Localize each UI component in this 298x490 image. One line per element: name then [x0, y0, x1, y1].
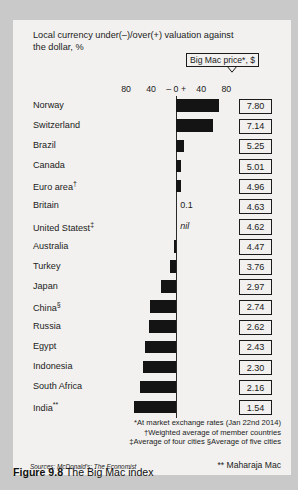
big-mac-price-box: 4.47 [239, 239, 272, 254]
country-label: Britain [33, 200, 59, 210]
figure-caption: Figure 9.8 The Big Mac index [13, 466, 291, 478]
chart-row: Canada5.01 [13, 156, 291, 176]
chart-panel: Local currency under(–)/over(+) valuatio… [13, 20, 291, 423]
chart-row: Indonesia2.30 [13, 357, 291, 377]
chart-row: India**1.54 [13, 397, 291, 417]
value-bar [174, 240, 176, 253]
big-mac-price-box: 2.16 [239, 380, 272, 395]
big-mac-price-box: 2.74 [239, 300, 272, 315]
bar-value-annotation: nil [180, 221, 189, 231]
chart-row: Japan2.97 [13, 277, 291, 297]
value-bar [176, 160, 180, 173]
big-mac-price-box: 1.54 [239, 400, 272, 415]
big-mac-price-box: 7.80 [239, 99, 272, 114]
chart-row: Egypt2.43 [13, 337, 291, 357]
big-mac-price-box: 2.43 [239, 340, 272, 355]
footnote-line: *At market exchange rates (Jan 22nd 2014… [33, 418, 281, 428]
x-tick-neg40: 40 [146, 84, 156, 94]
country-footnote-marker: ** [53, 401, 58, 408]
footnote-line: †Weighted average of member countries [33, 428, 281, 438]
big-mac-price-box: 7.14 [239, 119, 272, 134]
value-bar [176, 180, 181, 193]
chart-row: China§2.74 [13, 297, 291, 317]
footnotes: *At market exchange rates (Jan 22nd 2014… [33, 418, 281, 447]
value-bar [134, 401, 176, 414]
value-bar [176, 119, 212, 132]
chart-row: Russia2.62 [13, 317, 291, 337]
legend-pointer-icon [227, 66, 237, 73]
chart-row: Turkey3.76 [13, 257, 291, 277]
country-label: Australia [33, 241, 68, 251]
value-bar [176, 99, 219, 112]
country-label: Japan [33, 281, 58, 291]
x-tick-neg80: 80 [121, 84, 131, 94]
big-mac-price-box: 2.30 [239, 360, 272, 375]
country-label: Brazil [33, 140, 56, 150]
chart-row: Euro area†4.96 [13, 176, 291, 196]
value-bar [176, 140, 184, 153]
big-mac-price-box: 5.25 [239, 139, 272, 154]
value-bar [143, 361, 176, 374]
figure-card: Local currency under(–)/over(+) valuatio… [13, 20, 291, 475]
big-mac-price-box: 2.97 [239, 279, 272, 294]
country-label: Canada [33, 160, 65, 170]
big-mac-price-box: 4.96 [239, 179, 272, 194]
country-footnote-marker: § [57, 301, 61, 308]
footnote-line: ‡Average of four cities §Average of five… [33, 437, 281, 447]
country-label: United Statest‡ [33, 221, 94, 233]
big-mac-price-box: 3.76 [239, 259, 272, 274]
x-tick-pos40: 40 [196, 84, 206, 94]
big-mac-price-box: 4.62 [239, 219, 272, 234]
value-bar [149, 320, 177, 333]
country-label: Egypt [33, 341, 56, 351]
figure-caption-text: The Big Mac index [66, 466, 154, 478]
value-bar [170, 260, 176, 273]
country-label: India** [33, 401, 58, 413]
chart-row: Brazil5.25 [13, 136, 291, 156]
figure-number: Figure 9.8 [13, 466, 63, 478]
country-label: Switzerland [33, 120, 80, 130]
value-bar [161, 280, 176, 293]
country-footnote-marker: † [73, 180, 77, 187]
country-label: Norway [33, 100, 64, 110]
bar-value-annotation: 0.1 [180, 200, 193, 210]
country-label: China§ [33, 301, 61, 313]
x-tick-zero0: – 0 + [166, 84, 186, 94]
chart-row: Britain0.14.63 [13, 196, 291, 216]
big-mac-price-box: 2.62 [239, 320, 272, 335]
big-mac-price-box: 4.63 [239, 199, 272, 214]
chart-rows: Norway7.80Switzerland7.14Brazil5.25Canad… [13, 96, 291, 418]
big-mac-price-box: 5.01 [239, 159, 272, 174]
country-label: South Africa [33, 381, 82, 391]
country-label: Euro area† [33, 180, 77, 192]
chart-row: Norway7.80 [13, 96, 291, 116]
value-bar [150, 300, 176, 313]
country-label: Turkey [33, 261, 60, 271]
chart-row: Australia4.47 [13, 237, 291, 257]
x-tick-pos80: 80 [221, 84, 231, 94]
country-footnote-marker: ‡ [90, 221, 94, 228]
chart-row: United Statest‡nil4.62 [13, 217, 291, 237]
value-bar [140, 381, 176, 394]
country-label: Indonesia [33, 361, 72, 371]
price-column-legend: Big Mac price*, $ [186, 53, 259, 67]
chart-row: Switzerland7.14 [13, 116, 291, 136]
chart-title: Local currency under(–)/over(+) valuatio… [33, 30, 248, 53]
chart-row: South Africa2.16 [13, 377, 291, 397]
value-bar [145, 341, 176, 354]
country-label: Russia [33, 321, 61, 331]
